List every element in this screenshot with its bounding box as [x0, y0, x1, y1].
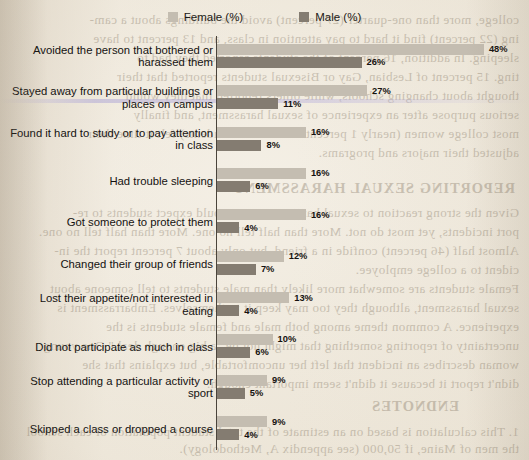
bar-group: Avoided the person that bothered or hara… [0, 43, 529, 71]
bar-group: Stayed away from particular buildings or… [0, 84, 529, 112]
bar-group: Got someone to protect them16%4% [0, 208, 529, 236]
bar-value-label-female: 12% [289, 251, 308, 261]
bar-female [217, 127, 306, 138]
category-label: Did not participate as much in class [7, 340, 213, 353]
category-label: Skipped a class or dropped a course [7, 423, 213, 436]
bar-male [217, 222, 239, 233]
bar-female [217, 375, 267, 386]
bar-male [217, 181, 250, 192]
bar-male [217, 140, 261, 151]
bar-female [217, 44, 484, 55]
category-label: Avoided the person that bothered or hara… [7, 44, 213, 69]
bar-group: Found it hard to study or to pay attenti… [0, 126, 529, 154]
bar-value-label-female: 16% [311, 168, 330, 178]
bar-value-label-male: 5% [250, 388, 263, 398]
bar-male [217, 305, 239, 316]
bar-value-label-female: 48% [489, 44, 508, 54]
legend-label-female: Female (%) [184, 11, 243, 23]
category-label: Stayed away from particular buildings or… [7, 86, 213, 111]
legend-item-female: Female (%) [168, 11, 243, 23]
bar-value-label-female: 9% [272, 417, 285, 427]
bar-group: Did not participate as much in class10%6… [0, 333, 529, 361]
bar-group: Changed their group of friends12%7% [0, 250, 529, 278]
legend-item-male: Male (%) [299, 11, 361, 23]
category-label: Had trouble sleeping [7, 175, 213, 188]
legend-swatch-female-icon [168, 12, 178, 22]
bar-value-label-male: 7% [261, 264, 274, 274]
bar-female [217, 251, 284, 262]
bar-female [217, 209, 306, 220]
bar-value-label-female: 13% [294, 293, 313, 303]
bar-group: Lost their appetite/not interested in ea… [0, 291, 529, 319]
bar-group: Skipped a class or dropped a course9%4% [0, 415, 529, 443]
bar-value-label-male: 4% [244, 430, 257, 440]
bar-value-label-male: 4% [244, 306, 257, 316]
bar-female [217, 292, 289, 303]
category-label: Stop attending a particular activity or … [7, 375, 213, 400]
bar-male [217, 347, 250, 358]
bar-value-label-female: 16% [311, 210, 330, 220]
bar-value-label-female: 10% [278, 334, 297, 344]
bar-value-label-male: 6% [255, 347, 268, 357]
bar-group: Stop attending a particular activity or … [0, 374, 529, 402]
bar-value-label-male: 11% [283, 99, 301, 109]
bar-male [217, 57, 362, 68]
bar-female [217, 168, 306, 179]
category-label: Found it hard to study or to pay attenti… [7, 127, 213, 152]
bar-value-label-male: 8% [266, 140, 279, 150]
bar-value-label-male: 6% [255, 181, 268, 191]
bar-female [217, 416, 267, 427]
category-label: Changed their group of friends [7, 257, 213, 270]
category-label: Got someone to protect them [7, 216, 213, 229]
bar-male [217, 264, 256, 275]
bar-female [217, 85, 367, 96]
chart-legend: Female (%) Male (%) [0, 11, 529, 23]
bar-male [217, 388, 245, 399]
bar-value-label-female: 16% [311, 127, 330, 137]
bar-group: Had trouble sleeping16%6% [0, 167, 529, 195]
legend-label-male: Male (%) [315, 11, 361, 23]
bar-male [217, 429, 239, 440]
grouped-bar-chart: Female (%) Male (%) Avoided the person t… [0, 0, 529, 460]
bar-male [217, 98, 278, 109]
bar-value-label-male: 26% [367, 57, 386, 67]
bar-value-label-female: 27% [372, 86, 391, 96]
bar-female [217, 334, 273, 345]
category-label: Lost their appetite/not interested in ea… [7, 293, 213, 318]
bar-value-label-female: 9% [272, 375, 285, 385]
plot-area: Avoided the person that bothered or hara… [0, 36, 529, 452]
legend-swatch-male-icon [299, 12, 309, 22]
bar-value-label-male: 4% [244, 223, 257, 233]
